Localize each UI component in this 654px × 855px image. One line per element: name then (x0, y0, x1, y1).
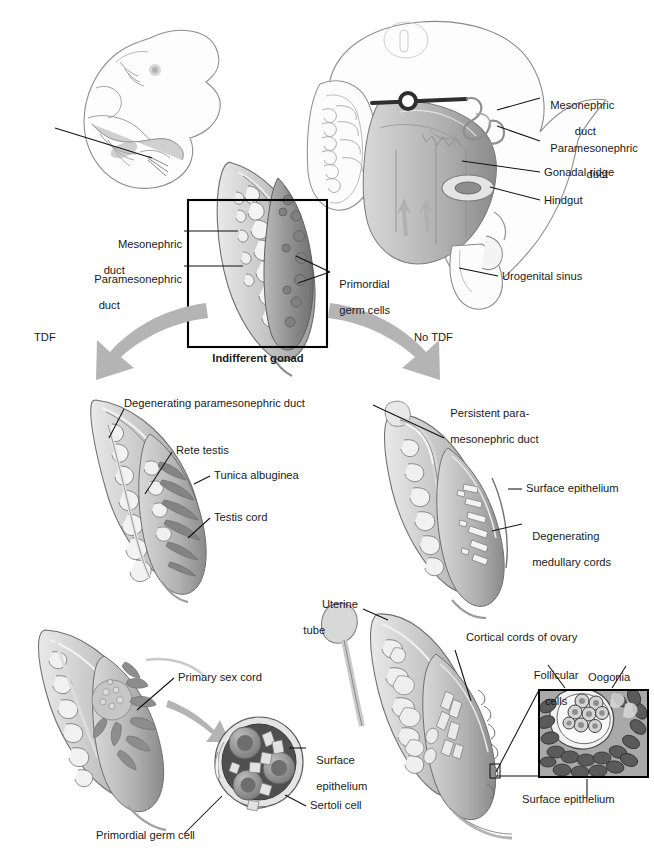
figure-canvas: Mesonephric duct Paramesonephric duct Go… (0, 0, 654, 855)
label-no-tdf: No TDF (414, 331, 453, 344)
label-primordial-germ-cells: Primordial germ cells (333, 265, 390, 317)
label-cortical-cords-of-ovary: Cortical cords of ovary (466, 631, 577, 644)
caption-indifferent-gonad: Indifferent gonad (190, 352, 326, 365)
label-gonadal-ridge: Gonadal ridge (544, 166, 614, 179)
label-sertoli-cell: Sertoli cell (310, 799, 362, 812)
tdf-arrow (96, 303, 208, 380)
label-paramesonephric-duct-indifferent: Paramesonephric duct (24, 260, 182, 312)
label-uterine-tube: Uterine tube (258, 585, 358, 637)
label-persistent-paramesonephric-duct: Persistent para- mesonephric duct (444, 394, 539, 446)
embryo-illustration (55, 30, 220, 188)
label-degenerating-medullary-cords: Degenerating medullary cords (526, 517, 611, 569)
label-hindgut: Hindgut (544, 194, 583, 207)
label-oogonia: Oogonia (588, 671, 630, 684)
testis-lower-illustration (39, 630, 304, 830)
label-surface-epithelium-ovary-lower: Surface epithelium (522, 793, 615, 806)
label-surface-epithelium-ovary-upper: Surface epithelium (526, 482, 619, 495)
label-follicular-cells: Follicular cells (514, 656, 592, 708)
label-testis-cord: Testis cord (214, 511, 267, 524)
label-tdf: TDF (34, 331, 56, 344)
label-surface-epithelium-testis-lower: Surface epithelium (310, 741, 367, 793)
label-urogenital-sinus: Urogenital sinus (502, 270, 582, 283)
label-tunica-albuginea: Tunica albuginea (214, 469, 299, 482)
label-degenerating-paramesonephric-duct: Degenerating paramesonephric duct (124, 397, 305, 410)
label-primary-sex-cord: Primary sex cord (178, 671, 262, 684)
label-primordial-germ-cell: Primordial germ cell (96, 829, 195, 842)
indifferent-gonad-illustration (217, 162, 315, 376)
label-rete-testis: Rete testis (176, 444, 229, 457)
developing-testis-illustration (91, 400, 206, 602)
